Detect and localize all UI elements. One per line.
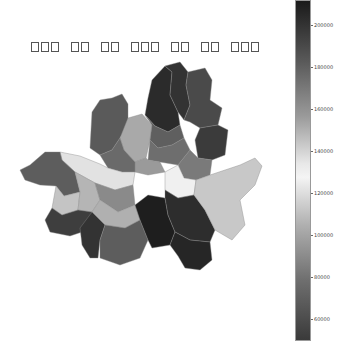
colorbar-tick: 120000 — [311, 190, 333, 196]
region-r4 — [195, 125, 228, 160]
choropleth-map — [0, 0, 290, 355]
colorbar-tick: 100000 — [311, 232, 333, 238]
colorbar-tick: 160000 — [311, 106, 333, 112]
colorbar-tick: 200000 — [311, 22, 333, 28]
region-r3 — [184, 68, 222, 128]
colorbar-tick: 140000 — [311, 148, 333, 154]
colorbar — [295, 0, 311, 341]
colorbar-tick: 180000 — [311, 64, 333, 70]
colorbar-tick: 60000 — [311, 316, 330, 322]
colorbar-tick: 80000 — [311, 274, 330, 280]
